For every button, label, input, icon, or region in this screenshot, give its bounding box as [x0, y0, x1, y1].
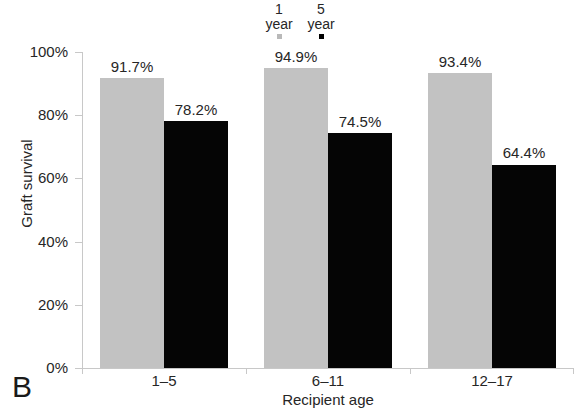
x-axis-title: Recipient age [82, 391, 574, 408]
x-axis-category-label: 1–5 [82, 372, 246, 389]
legend-item-5-year-unit: year [300, 17, 342, 32]
y-axis-tick [75, 178, 82, 179]
x-axis-line [82, 368, 574, 369]
legend-swatch-black-icon [319, 34, 324, 39]
legend: 1 year 5 year [258, 2, 348, 48]
legend-swatch-grey-icon [277, 34, 282, 39]
y-axis-line [82, 52, 83, 369]
y-axis-title: Graft survival [18, 114, 35, 254]
bar-1-year-6-11 [264, 68, 328, 368]
bar-value-label: 91.7% [92, 58, 172, 75]
legend-item-1-year-number: 1 [258, 2, 300, 17]
bar-value-label: 78.2% [156, 101, 236, 118]
bar-5-year-12-17 [492, 165, 556, 369]
bar-value-label: 64.4% [484, 144, 564, 161]
y-axis-tick [75, 115, 82, 116]
legend-item-1-year: 1 year [258, 2, 300, 39]
y-axis-tick [75, 368, 82, 369]
legend-item-5-year: 5 year [300, 2, 342, 39]
bar-value-label: 74.5% [320, 113, 400, 130]
y-axis-tick [75, 305, 82, 306]
x-axis-category-label: 12–17 [410, 372, 574, 389]
y-axis-tick-label: 100% [0, 43, 68, 60]
bar-value-label: 94.9% [256, 48, 336, 65]
y-axis-tick [75, 242, 82, 243]
bar-5-year-1-5 [164, 121, 228, 368]
y-axis-tick-label: 0% [0, 359, 68, 376]
y-axis-tick [75, 52, 82, 53]
legend-item-1-year-unit: year [258, 17, 300, 32]
bar-5-year-6-11 [328, 133, 392, 368]
bar-1-year-1-5 [100, 78, 164, 368]
bar-value-label: 93.4% [420, 53, 500, 70]
legend-item-5-year-number: 5 [300, 2, 342, 17]
panel-letter: B [12, 370, 32, 404]
x-axis-category-label: 6–11 [246, 372, 410, 389]
y-axis-tick-label: 20% [0, 296, 68, 313]
figure-panel-b: 1 year 5 year 0%20%40%60%80%100% Graft s… [0, 0, 580, 415]
bar-1-year-12-17 [428, 73, 492, 368]
